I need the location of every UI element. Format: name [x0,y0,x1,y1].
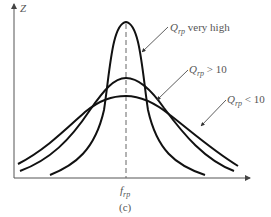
label-q-gt-10: Qrp > 10 [189,64,227,78]
impedance-resonance-figure: Z Qrp very high Qrp > 10 Qrp < 10 frp (c… [0,0,271,217]
y-axis-label: Z [20,3,26,14]
curve-q-very-high [50,22,205,175]
leader-gt-10 [157,70,188,100]
figure-caption: (c) [119,202,131,213]
leader-very-high [142,27,168,52]
curve-q-lt-10 [18,96,238,166]
label-q-lt-10: Qrp < 10 [227,94,265,108]
leader-lt-10 [201,100,226,126]
plot-canvas [0,0,271,217]
label-q-very-high: Qrp very high [170,22,230,36]
x-axis-label: frp [120,185,130,199]
